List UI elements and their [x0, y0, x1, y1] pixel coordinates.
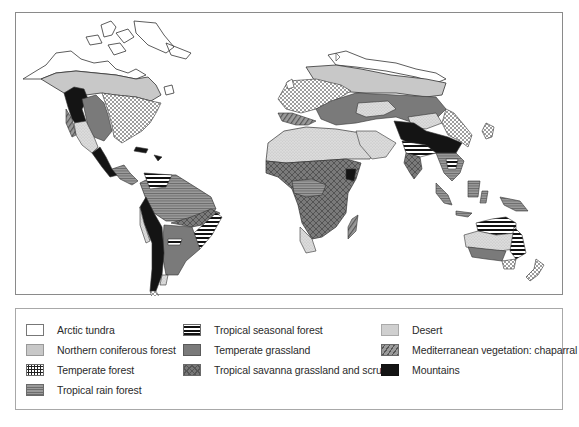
legend-label: Temperate grassland — [214, 344, 310, 356]
region-temperate-grassland — [162, 225, 200, 275]
legend-item-tropical-savanna: Tropical savanna grassland and scrub — [183, 360, 387, 380]
swatch-tropical-seasonal-forest — [183, 324, 201, 336]
south-america — [140, 173, 222, 296]
legend-label: Mountains — [412, 364, 460, 376]
region-caribbean-islands — [134, 147, 162, 161]
swatch-tropical-rain-forest — [26, 384, 44, 396]
region-temperate-forest — [150, 291, 162, 296]
region-new-zealand — [526, 259, 544, 281]
biome-map — [15, 12, 563, 295]
legend-column-2: Tropical seasonal forest Temperate grass… — [183, 320, 387, 380]
legend-label: Desert — [412, 324, 442, 336]
swatch-mountains — [381, 364, 399, 376]
region-temperate-forest — [502, 259, 516, 269]
swatch-mediterranean — [381, 344, 399, 356]
legend-label: Tropical seasonal forest — [214, 324, 323, 336]
legend-label: Tropical savanna grassland and scrub — [214, 364, 387, 376]
north-america — [23, 21, 191, 185]
legend-item-mediterranean: Mediterranean vegetation: chaparral — [381, 340, 577, 360]
world-map-svg — [16, 13, 564, 296]
swatch-northern-coniferous-forest — [26, 344, 44, 356]
region-tropical-seasonal-forest — [446, 159, 458, 169]
swatch-desert — [381, 324, 399, 336]
region-arctic-tundra — [86, 21, 191, 59]
swatch-temperate-grassland — [183, 344, 201, 356]
region-tropical-seasonal-forest — [168, 239, 182, 245]
region-madagascar — [348, 215, 358, 239]
legend-label: Tropical rain forest — [57, 384, 142, 396]
region-mountains — [346, 169, 356, 181]
legend-item-desert: Desert — [381, 320, 577, 340]
legend: Arctic tundra Northern coniferous forest… — [15, 308, 563, 410]
legend-label: Temperate forest — [57, 364, 134, 376]
legend-item-tropical-rain-forest: Tropical rain forest — [26, 380, 176, 400]
legend-item-arctic-tundra: Arctic tundra — [26, 320, 176, 340]
legend-item-tropical-seasonal-forest: Tropical seasonal forest — [183, 320, 387, 340]
region-tropical-savanna — [404, 153, 422, 179]
legend-item-temperate-forest: Temperate forest — [26, 360, 176, 380]
legend-column-1: Arctic tundra Northern coniferous forest… — [26, 320, 176, 400]
region-mediterranean — [278, 113, 316, 125]
africa — [266, 127, 396, 253]
swatch-temperate-forest — [26, 364, 44, 376]
legend-item-mountains: Mountains — [381, 360, 577, 380]
legend-item-temperate-grassland: Temperate grassland — [183, 340, 387, 360]
legend-item-northern-coniferous-forest: Northern coniferous forest — [26, 340, 176, 360]
legend-label: Mediterranean vegetation: chaparral — [412, 344, 577, 356]
legend-column-3: Desert Mediterranean vegetation: chaparr… — [381, 320, 577, 380]
swatch-tropical-savanna — [183, 364, 201, 376]
region-mountains — [92, 147, 118, 177]
region-tropical-rain-forest — [436, 181, 528, 217]
legend-label: Arctic tundra — [57, 324, 115, 336]
australia — [464, 217, 544, 281]
region-greenland-tundra — [164, 85, 174, 95]
region-japan — [482, 123, 494, 139]
swatch-arctic-tundra — [26, 324, 44, 336]
legend-label: Northern coniferous forest — [57, 344, 176, 356]
